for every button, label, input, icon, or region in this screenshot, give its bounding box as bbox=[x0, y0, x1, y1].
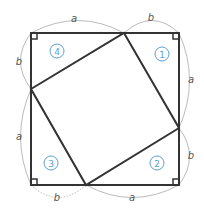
svg-text:2: 2 bbox=[154, 159, 160, 169]
triangle-number-1: 1 bbox=[155, 47, 169, 61]
label-top-b: b bbox=[148, 12, 154, 23]
triangle-number-2: 2 bbox=[150, 156, 164, 170]
label-top-a: a bbox=[71, 13, 77, 24]
svg-text:4: 4 bbox=[54, 47, 60, 57]
label-bottom-b: b bbox=[54, 192, 60, 203]
svg-text:1: 1 bbox=[159, 50, 165, 60]
label-left-a: a bbox=[16, 131, 22, 142]
triangle-number-3: 3 bbox=[44, 156, 58, 170]
pythagoras-diagram: a b a b a b b a 4 1 3 2 bbox=[0, 0, 204, 215]
label-bottom-a: a bbox=[129, 192, 135, 203]
arc-top-a bbox=[31, 21, 124, 34]
label-right-b: b bbox=[188, 150, 194, 161]
triangle-number-4: 4 bbox=[50, 44, 64, 58]
label-left-b: b bbox=[16, 56, 22, 67]
label-right-a: a bbox=[188, 74, 194, 85]
svg-text:3: 3 bbox=[48, 159, 54, 169]
